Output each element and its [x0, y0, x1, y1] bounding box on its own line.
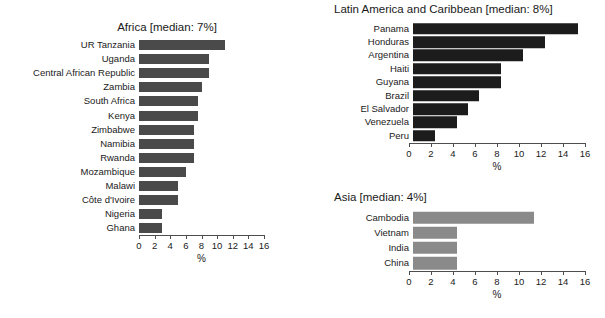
bar-track	[413, 76, 605, 89]
bar-row: Côte d'Ivoire	[0, 193, 300, 207]
axis-tick	[233, 235, 234, 239]
axis-tick-label: 10	[514, 148, 525, 159]
axis-tick-label: 8	[494, 276, 499, 287]
bar-track	[139, 193, 300, 207]
bar	[139, 111, 198, 121]
bar-row: Ghana	[0, 221, 300, 235]
axis-tick	[475, 143, 476, 147]
bar-track	[139, 123, 300, 137]
bar-row-label: UR Tanzania	[0, 40, 139, 50]
bar	[139, 153, 194, 163]
bar-track	[139, 38, 300, 52]
bar-track	[413, 89, 605, 102]
bar-track	[139, 221, 300, 235]
bar	[413, 63, 501, 75]
axis-tick-label: 10	[212, 240, 223, 251]
axis-tick-label: 0	[406, 276, 411, 287]
bar-row: Guyana	[330, 76, 605, 89]
axis-tick	[139, 235, 140, 239]
axis-tick	[170, 235, 171, 239]
bar-rows-africa: UR TanzaniaUgandaCentral African Republi…	[0, 38, 300, 235]
bar-row-label: Namibia	[0, 139, 139, 149]
axis-tick	[248, 235, 249, 239]
bar-row-label: Zimbabwe	[0, 125, 139, 135]
axis-tick	[186, 235, 187, 239]
bar-track	[413, 62, 605, 75]
axis-tick-label: 6	[183, 240, 188, 251]
bar-row-label: Zambia	[0, 82, 139, 92]
bar-row: Zambia	[0, 80, 300, 94]
axis-tick-label: 2	[428, 276, 433, 287]
bar-row-label: Rwanda	[0, 153, 139, 163]
axis-tick-label: 4	[168, 240, 173, 251]
panel-title-africa: Africa [median: 7%]	[72, 20, 262, 34]
bar-row: Malawi	[0, 179, 300, 193]
axis-title: %	[493, 289, 502, 300]
axis-tick-label: 4	[450, 148, 455, 159]
bar	[413, 130, 435, 142]
chart-panel-latin-america: Latin America and Caribbean [median: 8%]…	[330, 2, 605, 165]
bar	[413, 36, 545, 48]
axis-tick-label: 0	[406, 148, 411, 159]
bar	[139, 68, 209, 78]
bar	[139, 181, 178, 191]
bar-track	[139, 165, 300, 179]
axis-tick-label: 6	[472, 276, 477, 287]
bar-row-label: Haiti	[330, 64, 413, 74]
bar-row: South Africa	[0, 94, 300, 108]
axis-tick-label: 0	[136, 240, 141, 251]
bar	[139, 54, 209, 64]
bar	[413, 117, 457, 129]
axis-tick-label: 16	[259, 240, 270, 251]
bar-row: China	[330, 256, 605, 271]
bar-row-label: Argentina	[330, 50, 413, 60]
axis-title: %	[493, 161, 502, 172]
axis-tick	[497, 271, 498, 275]
bar-row-label: Central African Republic	[0, 68, 139, 78]
bar-row: Argentina	[330, 49, 605, 62]
axis-tick	[217, 235, 218, 239]
bar-row: Panama	[330, 22, 605, 35]
x-axis-asia: 0246810121416%	[409, 271, 585, 293]
bar-track	[139, 207, 300, 221]
axis-tick	[563, 271, 564, 275]
bar	[139, 96, 198, 106]
axis-tick	[453, 271, 454, 275]
bar	[139, 82, 202, 92]
bar-row: Cambodia	[330, 210, 605, 225]
bar-row-label: Côte d'Ivoire	[0, 195, 139, 205]
bar-row: Venezuela	[330, 116, 605, 129]
axis-tick	[541, 271, 542, 275]
bar-row: UR Tanzania	[0, 38, 300, 52]
x-axis-latin-america: 0246810121416%	[409, 143, 585, 165]
axis-tick	[497, 143, 498, 147]
bar	[139, 40, 225, 50]
panel-title-asia: Asia [median: 4%]	[334, 190, 605, 204]
axis-tick	[431, 271, 432, 275]
axis-tick	[155, 235, 156, 239]
bar	[139, 167, 186, 177]
axis-tick-label: 14	[243, 240, 254, 251]
bar-track	[139, 151, 300, 165]
axis-tick	[585, 143, 586, 147]
bar-row: Brazil	[330, 89, 605, 102]
axis-tick-label: 8	[199, 240, 204, 251]
axis-tick-label: 2	[428, 148, 433, 159]
bar-track	[413, 22, 605, 35]
bar-row: Namibia	[0, 137, 300, 151]
bar-track	[139, 179, 300, 193]
bar-track	[139, 80, 300, 94]
bar	[139, 223, 162, 233]
bar-row: Central African Republic	[0, 66, 300, 80]
axis-tick-label: 2	[152, 240, 157, 251]
bar-row: Rwanda	[0, 151, 300, 165]
bar-rows-latin-america: PanamaHondurasArgentinaHaitiGuyanaBrazil…	[330, 22, 605, 143]
bar-row: Mozambique	[0, 165, 300, 179]
axis-tick	[585, 271, 586, 275]
bar-row-label: Guyana	[330, 77, 413, 87]
axis-tick-label: 14	[558, 148, 569, 159]
bar-rows-asia: CambodiaVietnamIndiaChina	[330, 210, 605, 271]
axis-tick-label: 16	[580, 148, 591, 159]
axis-tick	[264, 235, 265, 239]
bar-row: India	[330, 240, 605, 255]
